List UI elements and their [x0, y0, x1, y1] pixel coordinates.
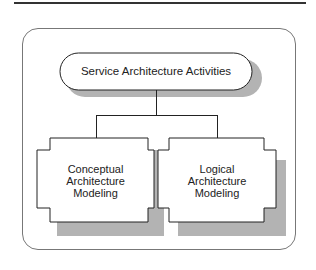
root-node-label: Service Architecture Activities: [60, 65, 252, 77]
label-line: Modeling: [37, 187, 154, 199]
right-child-label: Logical Architecture Modeling: [158, 163, 276, 199]
left-child-label: Conceptual Architecture Modeling: [37, 163, 154, 199]
label-line: Architecture: [158, 175, 276, 187]
label-line: Modeling: [158, 187, 276, 199]
label-line: Architecture: [37, 175, 154, 187]
label-line: Conceptual: [37, 163, 154, 175]
label-line: Logical: [158, 163, 276, 175]
diagram-shapes: [0, 0, 316, 270]
